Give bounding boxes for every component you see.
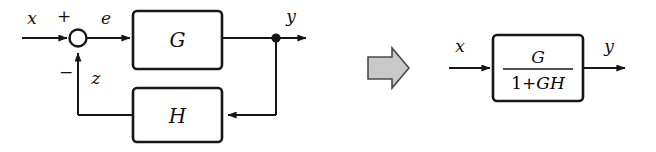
diagram-canvas: x + − e z y G H G 1+GH <box>0 0 656 152</box>
label-output-y-right: y <box>603 36 614 56</box>
block-diagram-figure: x + − e z y G H G 1+GH <box>0 0 656 152</box>
label-block-h: H <box>168 104 187 128</box>
label-input-x-right: x <box>455 36 465 56</box>
label-error-e: e <box>101 8 111 28</box>
label-output-y: y <box>285 6 296 26</box>
label-block-g: G <box>170 28 186 52</box>
label-plus-sign: + <box>57 6 71 26</box>
label-feedback-z: z <box>91 68 102 88</box>
transfer-numerator: G <box>531 47 545 67</box>
denominator-italic-part: GH <box>536 73 566 93</box>
right-equivalent-diagram: G 1+GH x y <box>449 35 625 101</box>
denominator-upright-part: 1+ <box>511 73 536 93</box>
block-arrow-right-icon <box>368 48 409 88</box>
left-feedback-diagram: x + − e z y G H <box>22 6 306 142</box>
label-input-x: x <box>27 8 37 28</box>
transfer-denominator: 1+GH <box>511 73 566 93</box>
transition-arrow-group <box>368 48 409 88</box>
summing-junction <box>70 30 87 47</box>
label-minus-sign: − <box>59 62 73 82</box>
